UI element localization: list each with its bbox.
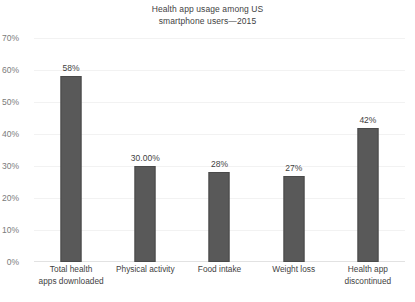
bar-chart: Health app usage among US smartphone use… [0, 0, 415, 302]
bar-slot: 27% [257, 38, 331, 262]
x-axis-category-label: Food intake [198, 264, 241, 276]
bar-value-label: 42% [359, 115, 376, 125]
y-axis-tick-label: 70% [0, 33, 19, 43]
x-axis-category-label: Total healthapps downloaded [39, 264, 104, 287]
y-axis-tick-label: 0% [0, 257, 19, 267]
y-axis-tick-label: 40% [0, 129, 19, 139]
bar-value-label: 30.00% [131, 153, 160, 163]
bar-slot: 58% [34, 38, 108, 262]
x-axis-category-line: Physical activity [116, 264, 175, 276]
y-axis-tick-label: 60% [0, 65, 19, 75]
bar-slot: 28% [182, 38, 256, 262]
bar[interactable] [61, 76, 82, 262]
y-axis-tick-label: 20% [0, 193, 19, 203]
bar-slot: 42% [331, 38, 405, 262]
plot-area: 0%10%20%30%40%50%60%70%58%30.00%28%27%42… [34, 38, 405, 262]
bar[interactable] [357, 128, 378, 262]
chart-title-line-2: smartphone users—2015 [0, 15, 415, 27]
x-axis-category-line: discontinued [345, 276, 392, 288]
x-axis-category-label: Health appdiscontinued [345, 264, 392, 287]
x-axis-labels: Total healthapps downloadedPhysical acti… [34, 264, 405, 302]
y-axis-tick-label: 10% [0, 225, 19, 235]
chart-title-line-1: Health app usage among US [0, 3, 415, 15]
bar[interactable] [283, 176, 304, 262]
bar-value-label: 28% [211, 159, 228, 169]
y-axis-tick-label: 50% [0, 97, 19, 107]
x-axis-category-line: Food intake [198, 264, 241, 276]
bar[interactable] [135, 166, 156, 262]
bar-value-label: 27% [285, 163, 302, 173]
bar-value-label: 58% [63, 63, 80, 73]
x-axis-category-line: apps downloaded [39, 276, 104, 288]
x-axis-category-label: Weight loss [272, 264, 315, 276]
chart-title: Health app usage among US smartphone use… [0, 3, 415, 27]
y-axis-tick-label: 30% [0, 161, 19, 171]
bar-slot: 30.00% [108, 38, 182, 262]
x-axis-category-line: Total health [39, 264, 104, 276]
x-axis-category-line: Health app [345, 264, 392, 276]
bar[interactable] [209, 172, 230, 262]
x-axis-category-label: Physical activity [116, 264, 175, 276]
x-axis-category-line: Weight loss [272, 264, 315, 276]
